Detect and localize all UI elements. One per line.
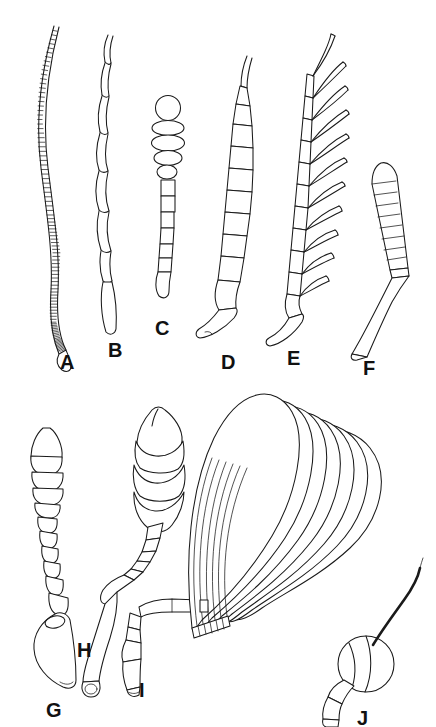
figure-label-h: H [77, 640, 91, 660]
figure-j-aristate [323, 558, 423, 727]
figure-label-d: D [221, 352, 235, 372]
figure-label-g: G [46, 700, 62, 720]
lamellate-fan [189, 394, 382, 638]
figure-g-clavate [31, 428, 76, 688]
figure-d-serrate [196, 56, 253, 338]
antennae-plate: .ln{fill:none;stroke:#1a1a1a;stroke-widt… [0, 0, 436, 727]
figure-a-filiform [35, 26, 71, 371]
figure-label-c: C [155, 318, 169, 338]
figure-label-j: J [357, 708, 368, 727]
figure-label-e: E [287, 348, 300, 368]
figure-label-a: A [60, 352, 74, 372]
figure-b-moniliform [96, 35, 116, 334]
figure-c-capitate [152, 96, 185, 298]
figure-label-b: B [108, 340, 122, 360]
figure-i-scape-base [122, 599, 200, 696]
figure-f-geniculate [351, 163, 409, 361]
figure-e-pectinate [266, 34, 349, 346]
figure-label-f: F [363, 358, 375, 378]
figure-label-i: I [139, 680, 145, 700]
